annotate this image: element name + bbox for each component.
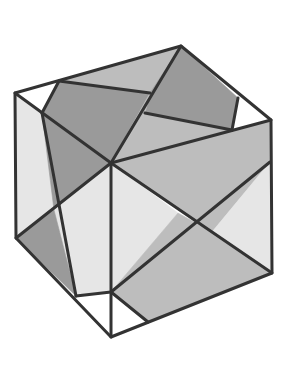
cube-diagram: [0, 0, 290, 365]
cube-svg: [0, 0, 290, 365]
